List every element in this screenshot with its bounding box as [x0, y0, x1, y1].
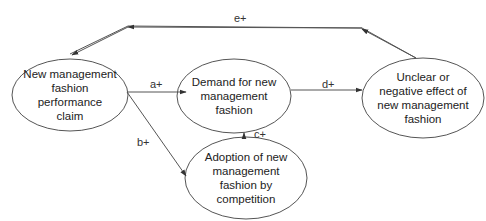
edge-e-segment-1 — [362, 29, 416, 58]
node-demand-line-1: Demand for new — [192, 75, 276, 89]
edge-c-label: c+ — [254, 128, 266, 140]
edge-e-label: e+ — [234, 12, 247, 24]
edge-b-label: b+ — [137, 136, 150, 148]
node-claim: New management fashion performance claim — [12, 60, 128, 130]
node-claim-line-4: claim — [23, 109, 116, 123]
edge-e-segment-2 — [128, 27, 362, 28]
node-effect-line-2: negative effect of — [377, 84, 468, 98]
node-claim-line-2: fashion — [23, 81, 116, 95]
node-effect-line-1: Unclear or — [377, 70, 468, 84]
node-adoption-line-1: Adoption of new — [205, 150, 287, 164]
node-demand-line-2: management — [192, 89, 276, 103]
node-demand: Demand for new management fashion — [177, 61, 291, 131]
node-adoption-line-4: competition — [205, 192, 287, 206]
node-claim-line-1: New management — [23, 67, 116, 81]
node-adoption: Adoption of new management fashion by co… — [185, 141, 307, 215]
node-adoption-line-3: fashion by — [205, 178, 287, 192]
edge-a-label: a+ — [150, 78, 163, 90]
edge-e-segment-3 — [72, 27, 128, 55]
edge-e-arrow — [70, 26, 416, 58]
node-adoption-line-2: management — [205, 164, 287, 178]
node-effect: Unclear or negative effect of new manage… — [362, 62, 484, 134]
node-effect-line-3: new management — [377, 98, 468, 112]
node-demand-line-3: fashion — [192, 103, 276, 117]
node-effect-line-4: fashion — [377, 112, 468, 126]
edge-d-label: d+ — [322, 78, 335, 90]
node-claim-line-3: performance — [23, 95, 116, 109]
